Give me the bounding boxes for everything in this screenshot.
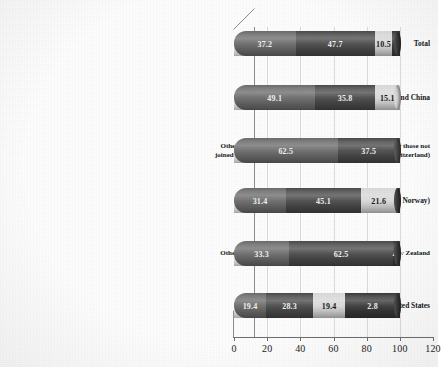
bar-row: United States19.428.319.42.8 [0,283,438,329]
bar-value-label: 62.5 [289,249,393,258]
x-tick [300,337,301,341]
bar-segment[interactable]: 10.5 [375,31,392,56]
bar-value-label: 37.5 [338,146,400,155]
bar-segment[interactable]: 33.3 [234,241,289,266]
figure-caption [8,353,428,366]
bar-segment[interactable]: 49.1 [234,85,315,110]
bar-value-label: 2.8 [345,301,400,310]
x-tick [367,337,368,341]
bar-value-label: 33.3 [234,249,289,258]
bar-value-label: 31.4 [234,196,286,205]
bar-end-cap [394,188,401,213]
bar-segment[interactable]: 19.4 [313,293,345,318]
bar-segment[interactable]: 21.6 [361,188,397,213]
bar-value-label: 21.6 [361,196,397,205]
bar-value-label: 28.3 [266,301,313,310]
bar-segment[interactable]: 62.5 [289,241,393,266]
bar-end-cap [394,241,401,266]
bar-segment[interactable]: 37.2 [234,31,296,56]
x-tick [433,337,434,341]
bar-value-label: 35.8 [315,93,374,102]
bar-row: Total37.247.710.5 [0,21,438,67]
bar-segment[interactable]: 2.8 [345,293,400,318]
bar-row: G-77 and China49.135.815.1 [0,75,438,121]
bar-segment[interactable]: 35.8 [315,85,374,110]
x-tick [400,337,401,341]
bar-value-label: 10.5 [375,39,392,48]
bar-segment[interactable]: 31.4 [234,188,286,213]
bar-value-label: 62.5 [234,146,338,155]
x-tick [234,337,235,341]
bar-value-label: 37.2 [234,39,296,48]
bar-value-label: 19.4 [234,301,266,310]
bar-segment[interactable]: 19.4 [234,293,266,318]
bar-row: Other Developed (includes the Russian Fe… [0,128,438,174]
x-tick [334,337,335,341]
bar-row: European Union (except Norway)31.445.121… [0,178,438,224]
x-tick [267,337,268,341]
bar-value-label: 47.7 [296,39,375,48]
bar-value-label: 49.1 [234,93,315,102]
bar-segment[interactable]: 28.3 [266,293,313,318]
bar-segment[interactable]: 62.5 [234,138,338,163]
bar-end-cap [394,138,401,163]
bar-segment[interactable]: 47.7 [296,31,375,56]
bar-segment[interactable]: 45.1 [286,188,361,213]
bar-value-label: 19.4 [313,301,345,310]
bar-end-cap [394,85,401,110]
bar-segment[interactable]: 37.5 [338,138,400,163]
bar-row: Other JCANNZ: Japan, Canada, Australia, … [0,231,438,277]
bar-end-cap [394,31,401,56]
bar-value-label: 45.1 [286,196,361,205]
bar-end-cap [394,293,401,318]
